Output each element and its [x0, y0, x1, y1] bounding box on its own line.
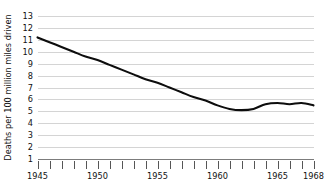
line-chart: 1234567891011121319451950195519601965196…	[0, 0, 333, 194]
x-axis-tick-label: 1955	[147, 171, 168, 181]
y-axis-tick-label: 7	[28, 83, 33, 93]
y-axis-tick-label: 11	[23, 35, 33, 45]
x-axis-tick-label: 1965	[267, 171, 288, 181]
x-axis-tick-label: 1968	[303, 171, 324, 181]
y-axis-tick-label: 9	[28, 59, 33, 69]
y-axis-tick-label: 4	[28, 118, 33, 128]
y-axis-tick-label: 12	[23, 23, 33, 33]
y-axis-tick-label: 1	[28, 154, 33, 164]
y-axis-tick-label: 13	[23, 11, 33, 21]
y-axis-tick-label: 8	[28, 71, 33, 81]
x-axis-tick-label: 1960	[207, 171, 228, 181]
y-axis-tick-label: 5	[28, 106, 33, 116]
y-axis-tick-label: 3	[28, 130, 33, 140]
chart-canvas: 1234567891011121319451950195519601965196…	[0, 0, 333, 194]
y-axis-title: Deaths per 100 million miles driven	[3, 14, 13, 160]
y-axis-tick-label: 2	[28, 142, 33, 152]
x-axis-tick-label: 1945	[27, 171, 48, 181]
y-axis-tick-label: 10	[23, 47, 33, 57]
y-axis-tick-label: 6	[28, 94, 33, 104]
x-axis-tick-label: 1950	[87, 171, 108, 181]
